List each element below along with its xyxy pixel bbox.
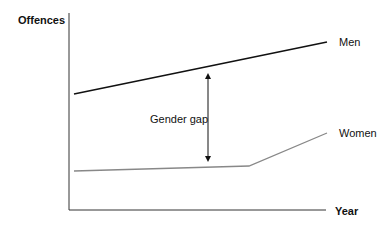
- gender-gap-label: Gender gap: [150, 113, 208, 125]
- x-axis-label: Year: [335, 205, 358, 217]
- women-series-label: Women: [339, 127, 377, 139]
- men-line: [74, 42, 327, 94]
- men-series-label: Men: [339, 36, 360, 48]
- women-line: [74, 133, 327, 171]
- y-axis-label: Offences: [18, 14, 65, 26]
